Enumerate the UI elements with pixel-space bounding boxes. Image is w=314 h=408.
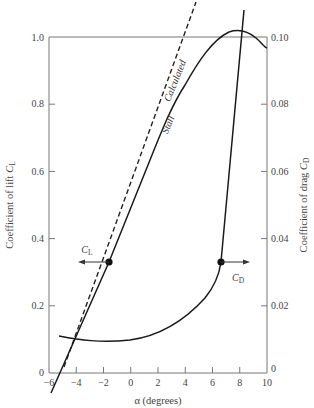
y-axis-title: Coefficient of lift CL — [4, 161, 17, 249]
right-y-ticks — [261, 104, 267, 306]
y2-axis-title: Coefficient of drag CD — [298, 157, 311, 252]
y-tick-label: 1.0 — [32, 32, 45, 43]
y2-tick-label: 0.10 — [271, 32, 289, 43]
y-tick-label: 0.2 — [32, 300, 45, 311]
left-y-tick-labels: 0 0.2 0.4 0.6 0.8 1.0 — [32, 32, 45, 378]
y2-tick-label: 0.04 — [271, 233, 289, 244]
x-ticks — [76, 367, 240, 373]
left-y-ticks — [49, 104, 55, 306]
right-y-tick-labels: 0 0.02 0.04 0.06 0.08 0.10 — [271, 32, 289, 374]
cl-label: CL — [81, 244, 93, 257]
y2-tick-label: 0.08 — [271, 98, 289, 109]
cd-label: CD — [232, 272, 245, 285]
x-axis-title: α (degrees) — [134, 395, 182, 407]
cl-curve — [51, 31, 267, 393]
x-tick-label: 0 — [128, 377, 133, 388]
x-tick-label: −6 — [44, 377, 55, 388]
x-tick-label: 10 — [262, 377, 272, 388]
x-tick-labels: −6 −4 −2 0 2 4 6 8 10 — [44, 377, 272, 388]
y-tick-label: 0.4 — [32, 233, 45, 244]
y-tick-label: 0.8 — [32, 98, 45, 109]
y2-tick-label: 0.06 — [271, 166, 289, 177]
cd-marker: CD — [217, 258, 250, 285]
lift-drag-chart: 0 0.2 0.4 0.6 0.8 1.0 0 0.02 0.04 0.06 0… — [0, 0, 314, 408]
x-tick-label: 6 — [210, 377, 215, 388]
x-tick-label: 4 — [183, 377, 188, 388]
y2-tick-label: 0.02 — [271, 300, 289, 311]
calculated-label: Calculated — [161, 57, 188, 103]
cl-marker: CL — [78, 244, 113, 266]
arrow-left-icon — [78, 260, 85, 265]
arrow-right-icon — [243, 260, 250, 265]
y-tick-label: 0.6 — [32, 166, 45, 177]
cd-curve — [59, 10, 244, 341]
x-tick-label: −4 — [71, 377, 82, 388]
x-tick-label: 8 — [237, 377, 242, 388]
calculated-cl-line — [64, 2, 196, 367]
y2-tick-label: 0 — [271, 363, 276, 374]
x-tick-label: −2 — [98, 377, 109, 388]
stall-label: Stall — [159, 114, 176, 135]
x-tick-label: 2 — [156, 377, 161, 388]
